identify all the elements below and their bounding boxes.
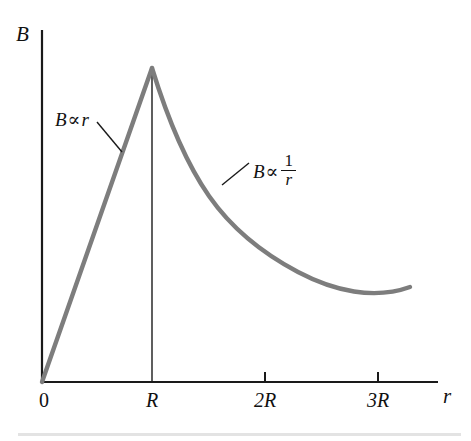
- proportional-to-icon: ∝: [265, 162, 280, 181]
- proportional-to-icon: ∝: [67, 110, 82, 129]
- plot-canvas: [0, 0, 471, 441]
- x-tick-label-R: R: [146, 390, 158, 410]
- leader-line-outside: [222, 163, 249, 185]
- x-tick-label-0: 0: [39, 390, 49, 410]
- x-tick-label-3R: 3R: [367, 390, 389, 410]
- annotation-outside-inverse: B ∝ 1 r: [253, 153, 296, 190]
- leader-line-inside: [97, 122, 122, 152]
- magnetic-field-figure: B r 0 R 2R 3R B ∝ r B ∝ 1 r: [0, 0, 471, 441]
- fraction-numerator: 1: [281, 152, 296, 170]
- x-tick-label-2R: 2R: [254, 390, 276, 410]
- bottom-divider-rule: [18, 433, 461, 436]
- annotation-inside-linear: B ∝ r: [55, 110, 89, 129]
- y-axis-label: B: [16, 24, 29, 45]
- fraction-denominator: r: [282, 171, 295, 189]
- fraction-one-over-r: 1 r: [281, 152, 296, 189]
- annotation-inside-rhs: r: [81, 110, 88, 129]
- x-axis-label: r: [443, 386, 451, 407]
- annotation-outside-lhs: B: [253, 162, 265, 181]
- annotation-inside-lhs: B: [55, 110, 67, 129]
